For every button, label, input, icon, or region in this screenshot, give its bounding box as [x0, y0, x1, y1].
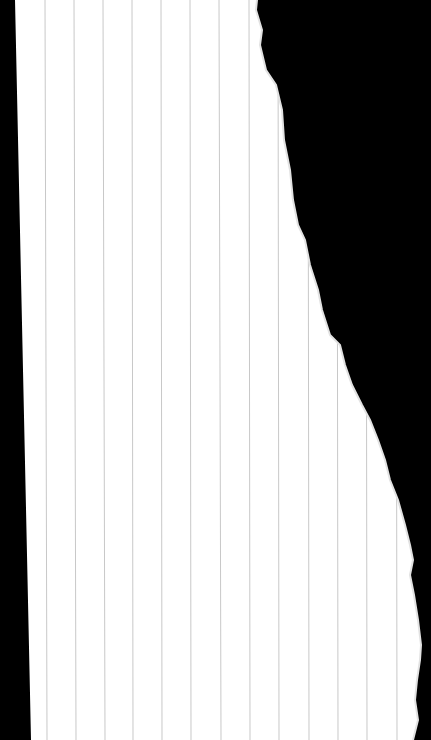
torn-paper	[0, 0, 431, 740]
